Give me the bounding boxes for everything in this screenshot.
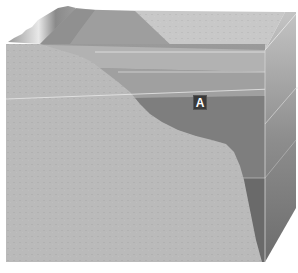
side-face	[265, 12, 296, 262]
front-face	[6, 44, 298, 262]
top-surface	[8, 6, 285, 50]
side-face-panel	[265, 12, 296, 262]
label-a: A	[193, 95, 207, 110]
ocean-block-diagram	[0, 0, 298, 273]
